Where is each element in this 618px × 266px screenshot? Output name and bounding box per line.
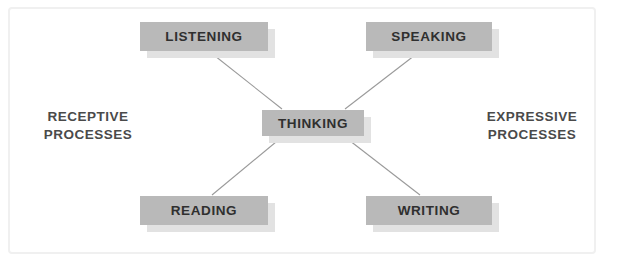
diagram-figure: LISTENING SPEAKING THINKING READING WRIT… [0, 0, 618, 266]
node-speaking-label: SPEAKING [391, 29, 466, 44]
node-listening-label: LISTENING [165, 29, 242, 44]
group-label-receptive: RECEPTIVE PROCESSES [27, 108, 149, 144]
group-label-expressive-line2: PROCESSES [470, 126, 594, 144]
node-writing: WRITING [366, 196, 492, 225]
edge-listening-thinking [210, 52, 282, 109]
edge-speaking-thinking [345, 52, 419, 109]
group-label-receptive-line1: RECEPTIVE [27, 108, 149, 126]
group-label-expressive-line1: EXPRESSIVE [470, 108, 594, 126]
node-speaking: SPEAKING [366, 22, 492, 51]
edge-thinking-writing [345, 137, 420, 195]
node-reading: READING [140, 196, 268, 225]
edge-thinking-reading [212, 137, 282, 195]
node-reading-label: READING [171, 203, 237, 218]
node-writing-label: WRITING [398, 203, 461, 218]
node-listening: LISTENING [140, 22, 268, 51]
node-thinking: THINKING [262, 110, 364, 136]
group-label-expressive: EXPRESSIVE PROCESSES [470, 108, 594, 144]
node-thinking-label: THINKING [278, 116, 348, 131]
group-label-receptive-line2: PROCESSES [27, 126, 149, 144]
